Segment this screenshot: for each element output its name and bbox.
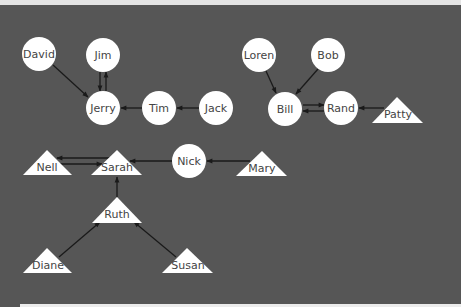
node-nick[interactable]: Nick xyxy=(172,144,206,178)
edge-diane-ruth xyxy=(59,222,100,257)
node-label: Tim xyxy=(148,102,169,115)
relationship-graph: David Jim Jerry Tim Jack Loren Bob Bill … xyxy=(0,0,461,307)
node-ruth[interactable]: Ruth xyxy=(92,197,142,223)
node-label: Jack xyxy=(204,102,228,115)
node-mary[interactable]: Mary xyxy=(236,151,287,176)
edge-susan-ruth xyxy=(134,222,176,257)
node-label: Mary xyxy=(248,162,276,175)
edge-david-jerry xyxy=(53,65,88,97)
node-label: Bob xyxy=(317,49,338,62)
node-jerry[interactable]: Jerry xyxy=(86,91,120,125)
node-label: Jim xyxy=(93,49,111,62)
node-label: Rand xyxy=(327,102,355,115)
node-bill[interactable]: Bill xyxy=(268,92,302,126)
node-label: Susan xyxy=(171,259,204,272)
node-nell[interactable]: Nell xyxy=(23,150,72,175)
node-label: Sarah xyxy=(101,161,133,174)
node-patty[interactable]: Patty xyxy=(372,97,423,123)
node-rand[interactable]: Rand xyxy=(324,91,358,125)
node-sarah[interactable]: Sarah xyxy=(91,150,142,175)
node-label: Patty xyxy=(384,108,413,121)
node-label: Bill xyxy=(277,103,294,116)
node-jim[interactable]: Jim xyxy=(86,38,120,72)
node-label: Jerry xyxy=(89,102,116,115)
node-bob[interactable]: Bob xyxy=(311,38,345,72)
node-david[interactable]: David xyxy=(22,37,56,71)
node-label: Nick xyxy=(177,155,201,168)
edge-loren-bill xyxy=(266,71,276,93)
node-label: Nell xyxy=(36,161,57,174)
node-loren[interactable]: Loren xyxy=(242,38,276,72)
node-label: David xyxy=(23,48,55,61)
node-label: Diane xyxy=(32,259,64,272)
node-tim[interactable]: Tim xyxy=(142,91,176,125)
node-jack[interactable]: Jack xyxy=(199,91,233,125)
node-label: Ruth xyxy=(104,208,129,221)
edge-bob-bill xyxy=(296,69,318,94)
node-label: Loren xyxy=(244,49,275,62)
